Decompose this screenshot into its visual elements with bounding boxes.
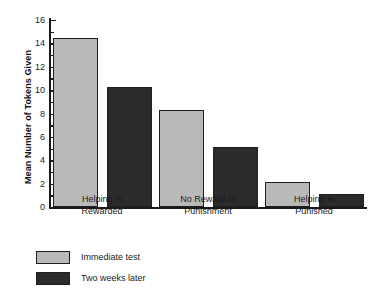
category-label-line: Punished — [254, 206, 374, 218]
y-tick-label: 6 — [40, 132, 45, 141]
legend-swatch-1 — [36, 272, 70, 285]
legend-item-0: Immediate test — [36, 249, 146, 266]
y-tick-label: 12 — [35, 62, 45, 71]
bar-chart-figure: Mean Number of Tokens Given 024681012141… — [0, 0, 375, 291]
bar-1-0 — [107, 87, 152, 207]
legend-label-1: Two weeks later — [81, 274, 146, 283]
y-tick-label: 8 — [40, 109, 45, 118]
category-label-1: No Reward orPunishment — [148, 194, 268, 217]
category-label-line: Helping Is — [42, 194, 162, 206]
category-label-line: Helping Is — [254, 194, 374, 206]
category-label-line: Punishment — [148, 206, 268, 218]
y-minor-tick-15 — [50, 32, 54, 33]
category-label-line: No Reward or — [148, 194, 268, 206]
chart-legend: Immediate testTwo weeks later — [36, 249, 146, 291]
legend-swatch-0 — [36, 251, 70, 264]
bar-0-1 — [159, 110, 204, 207]
y-tick-label: 4 — [40, 156, 45, 165]
category-label-0: Helping IsRewarded — [42, 194, 162, 217]
category-label-2: Helping IsPunished — [254, 194, 374, 217]
y-tick-label: 14 — [35, 39, 45, 48]
y-tick-label: 2 — [40, 179, 45, 188]
legend-item-1: Two weeks later — [36, 270, 146, 287]
y-tick-label: 10 — [35, 86, 45, 95]
bar-0-0 — [53, 38, 98, 207]
y-tick-mark — [50, 20, 56, 21]
category-label-line: Rewarded — [42, 206, 162, 218]
legend-label-0: Immediate test — [81, 253, 140, 262]
y-axis-title: Mean Number of Tokens Given — [23, 27, 33, 207]
plot-area: 0246810121416 — [49, 20, 367, 207]
y-tick-label: 16 — [35, 16, 45, 25]
